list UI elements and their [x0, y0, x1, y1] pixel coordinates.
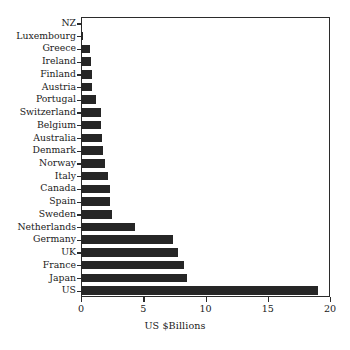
y-axis-label-australia: Australia	[0, 133, 76, 143]
bar	[81, 223, 135, 232]
y-axis-label-luxembourg: Luxembourg	[0, 31, 76, 41]
y-axis-tick	[77, 189, 81, 190]
y-axis-tick	[77, 227, 81, 228]
y-axis-label-belgium: Belgium	[0, 120, 76, 130]
bar	[81, 172, 108, 181]
y-axis-tick	[77, 163, 81, 164]
y-axis-tick	[77, 23, 81, 24]
y-axis-tick	[77, 112, 81, 113]
x-axis-tick	[268, 297, 269, 302]
y-axis-tick	[77, 202, 81, 203]
y-axis-tick	[77, 214, 81, 215]
y-axis-label-uk: UK	[0, 247, 76, 257]
y-axis-tick	[77, 151, 81, 152]
bar	[81, 159, 105, 168]
y-axis-label-greece: Greece	[0, 43, 76, 53]
bar	[81, 146, 103, 155]
y-axis-label-japan: Japan	[0, 273, 76, 283]
y-axis-tick	[77, 252, 81, 253]
bar	[81, 83, 92, 92]
bar	[81, 45, 90, 54]
y-axis-tick	[77, 291, 81, 292]
y-axis-tick	[77, 36, 81, 37]
y-axis-label-switzerland: Switzerland	[0, 107, 76, 117]
bar-chart: NZLuxembourgGreeceIrelandFinlandAustriaP…	[0, 0, 350, 350]
y-axis-tick	[77, 100, 81, 101]
y-axis-label-ireland: Ireland	[0, 56, 76, 66]
x-axis-tick-labels: 05101520	[0, 303, 350, 317]
y-axis-label-us: US	[0, 285, 76, 295]
bar	[81, 210, 112, 219]
bar	[81, 108, 101, 117]
bar	[81, 286, 318, 295]
y-axis-label-germany: Germany	[0, 234, 76, 244]
y-axis-label-portugal: Portugal	[0, 94, 76, 104]
bar	[81, 95, 96, 104]
x-axis-tick-label: 20	[324, 303, 336, 315]
y-axis-labels: NZLuxembourgGreeceIrelandFinlandAustriaP…	[0, 17, 76, 297]
y-axis-tick	[77, 176, 81, 177]
x-axis-tick	[206, 297, 207, 302]
y-axis-label-canada: Canada	[0, 183, 76, 193]
bars-container	[81, 17, 330, 297]
y-axis-label-austria: Austria	[0, 82, 76, 92]
y-axis-label-sweden: Sweden	[0, 209, 76, 219]
y-axis-label-netherlands: Netherlands	[0, 222, 76, 232]
y-axis-tick	[77, 74, 81, 75]
x-axis-tick-label: 5	[140, 303, 146, 315]
y-axis-label-france: France	[0, 260, 76, 270]
y-axis-tick	[77, 62, 81, 63]
y-axis-label-finland: Finland	[0, 69, 76, 79]
x-axis-ticks	[81, 297, 330, 302]
bar	[81, 70, 92, 79]
y-axis-tick	[77, 278, 81, 279]
y-axis-label-italy: Italy	[0, 171, 76, 181]
bar	[81, 57, 91, 66]
y-axis-tick	[77, 49, 81, 50]
bar-row	[81, 284, 330, 298]
y-axis-label-spain: Spain	[0, 196, 76, 206]
bar	[81, 274, 187, 283]
x-axis-tick	[143, 297, 144, 302]
bar	[81, 261, 184, 270]
y-axis-tick	[77, 265, 81, 266]
bar	[81, 248, 178, 257]
x-axis-title: US $Billions	[0, 320, 350, 331]
bar	[81, 197, 110, 206]
bar	[81, 121, 101, 130]
bar	[81, 32, 83, 41]
y-axis-tick	[77, 240, 81, 241]
bar	[81, 134, 102, 143]
y-axis-label-norway: Norway	[0, 158, 76, 168]
bar	[81, 185, 110, 194]
x-axis-tick-label: 10	[199, 303, 211, 315]
y-axis-tick	[77, 87, 81, 88]
y-axis-label-nz: NZ	[0, 18, 76, 28]
bar	[81, 235, 173, 244]
x-axis-tick	[330, 297, 331, 302]
bar	[81, 19, 82, 28]
x-axis-tick	[81, 297, 82, 302]
y-axis-tick	[77, 138, 81, 139]
y-axis-label-denmark: Denmark	[0, 145, 76, 155]
y-axis-ticks	[77, 17, 81, 297]
y-axis-tick	[77, 125, 81, 126]
x-axis-tick-label: 15	[262, 303, 274, 315]
x-axis-tick-label: 0	[78, 303, 84, 315]
